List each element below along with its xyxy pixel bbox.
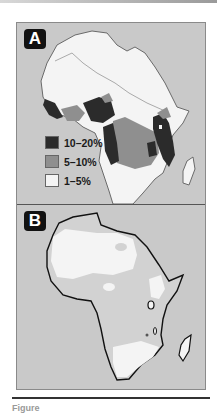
africa-outline-map	[17, 205, 205, 389]
caption-divider	[12, 397, 210, 399]
legend-swatch-dark	[45, 136, 59, 149]
legend-item-medium: 5–10%	[45, 152, 103, 171]
legend-swatch-light	[45, 174, 59, 187]
legend-label-low: 1–5%	[64, 175, 91, 187]
top-border	[0, 0, 217, 3]
map-panel-a: A 10–20% 5–10% 1–5%	[17, 23, 205, 205]
map-panel-b: B	[17, 205, 205, 389]
figure-container: A 10–20% 5–10% 1–5%	[16, 22, 206, 390]
legend-item-low: 1–5%	[45, 171, 103, 190]
map-legend: 10–20% 5–10% 1–5%	[45, 133, 103, 190]
legend-label-medium: 5–10%	[64, 156, 97, 168]
legend-label-high: 10–20%	[64, 137, 103, 149]
legend-swatch-mid	[45, 155, 59, 168]
panel-label-a: A	[24, 29, 46, 49]
figure-caption: Figure	[12, 403, 40, 413]
legend-item-high: 10–20%	[45, 133, 103, 152]
panel-label-b: B	[24, 211, 46, 231]
